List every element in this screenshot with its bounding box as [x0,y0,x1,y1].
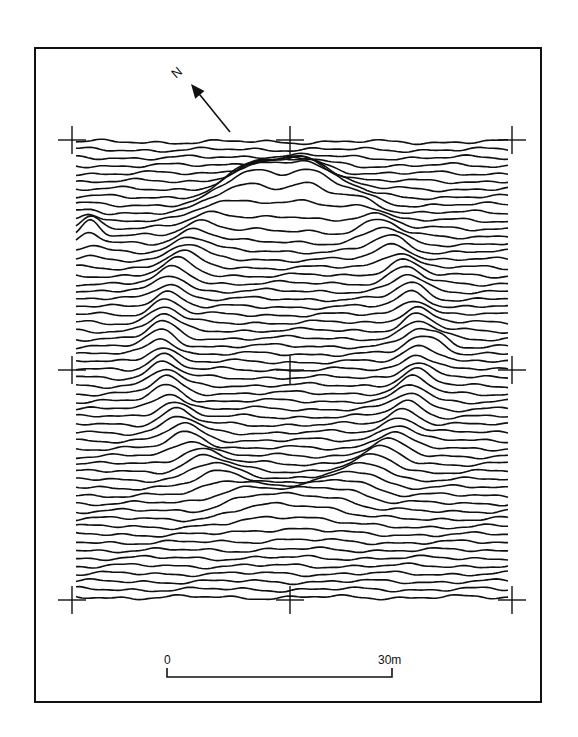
trace-line [76,228,508,247]
traceplot-canvas [0,0,578,737]
trace-line [76,571,508,577]
trace-line [76,200,508,223]
trace-line [76,563,508,569]
trace-line [76,579,508,585]
trace-line [76,595,508,600]
north-arrow-icon [191,84,230,132]
trace-line [76,400,508,419]
trace-line [76,539,508,545]
trace-line [76,385,508,404]
trace-line [76,529,508,537]
trace-line [76,547,508,553]
trace-line [76,275,508,294]
trace-line [76,220,508,239]
trace-line [76,235,508,254]
scale-bar [167,668,392,677]
trace-line [76,147,508,152]
trace-line [76,555,508,560]
trace-line [76,393,508,412]
scale-start-label: 0 [164,654,171,666]
scale-end-label: 30m [378,654,401,666]
trace-line [76,587,508,593]
